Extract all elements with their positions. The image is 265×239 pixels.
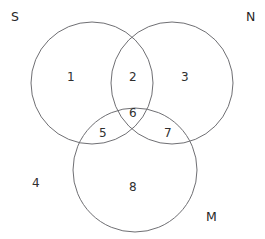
set-label-n: N: [246, 11, 255, 24]
region-label-4: 4: [32, 177, 40, 189]
region-label-2: 2: [129, 71, 137, 83]
region-label-1: 1: [67, 71, 75, 83]
set-label-s: S: [11, 11, 19, 24]
region-label-6: 6: [129, 107, 137, 119]
region-label-5: 5: [99, 127, 107, 139]
region-label-7: 7: [164, 127, 172, 139]
region-label-3: 3: [181, 71, 189, 83]
venn-diagram-canvas: S N M 1 2 3 4 5 6 7 8: [0, 0, 265, 239]
set-label-m: M: [206, 211, 217, 224]
region-label-8: 8: [129, 181, 137, 193]
